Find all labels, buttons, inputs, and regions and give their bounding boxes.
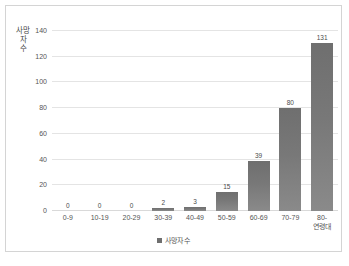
bar-slot: 15 [211,31,243,211]
bar[interactable] [216,192,238,211]
bar[interactable] [184,207,206,211]
bar-slot: 39 [243,31,275,211]
bar[interactable] [279,108,301,211]
x-axis-tick-label: 30-39 [147,213,179,231]
x-axis-tick-label: 10-19 [84,213,116,231]
y-axis-tick-label: 40 [39,155,47,162]
x-axis-tick-label: 20-29 [116,213,148,231]
bar-value-label: 39 [255,152,262,160]
y-axis-tick-label: 120 [35,52,47,59]
bar-slot: 0 [52,31,84,211]
x-axis-tick-label: 0-9 [52,213,84,231]
x-axis-tick-label: 80- 연령대 [306,213,338,231]
bar-value-label: 15 [223,183,230,191]
bar-value-label: 0 [98,202,102,210]
y-axis-tick-label: 20 [39,181,47,188]
bar-value-label: 0 [130,202,134,210]
bar-value-label: 0 [66,202,70,210]
y-axis-tick-label: 80 [39,104,47,111]
y-axis-tick-label: 140 [35,27,47,34]
plot-area: 020406080100120140 00023153980131 [52,31,338,211]
bar-slot: 3 [179,31,211,211]
bar-slot: 2 [147,31,179,211]
bar-value-label: 80 [287,99,294,107]
legend: 사망자 수 [6,235,341,245]
x-axis-tick-label: 50-59 [211,213,243,231]
y-axis-title: 사망자 수 [16,26,30,54]
bar-value-label: 131 [317,34,328,42]
chart-frame: 사망자 수 020406080100120140 00023153980131 … [5,5,342,252]
bar-series: 00023153980131 [52,31,338,211]
bar-slot: 0 [84,31,116,211]
x-axis-tick-labels: 0-910-1920-2930-3940-4950-5960-6970-7980… [52,213,338,231]
legend-label: 사망자 수 [165,235,191,245]
x-axis-tick-label: 40-49 [179,213,211,231]
bar[interactable] [248,161,270,211]
bar-slot: 80 [274,31,306,211]
y-axis-tick-label: 0 [43,207,47,214]
bar-value-label: 2 [161,199,165,207]
y-axis-tick-label: 100 [35,78,47,85]
bar[interactable] [311,43,333,211]
y-axis-tick-label: 60 [39,129,47,136]
legend-swatch-icon [157,238,162,243]
bar[interactable] [152,208,174,211]
bar-value-label: 3 [193,198,197,206]
bar-slot: 131 [306,31,338,211]
bar-slot: 0 [116,31,148,211]
x-axis-tick-label: 60-69 [243,213,275,231]
x-axis-tick-label: 70-79 [274,213,306,231]
